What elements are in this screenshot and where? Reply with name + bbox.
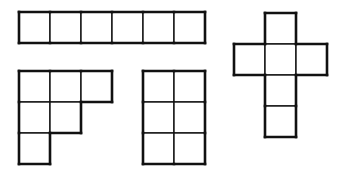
cell bbox=[112, 12, 143, 43]
cell bbox=[296, 44, 327, 75]
cell bbox=[143, 12, 174, 43]
cell bbox=[174, 102, 205, 133]
cell bbox=[143, 133, 174, 164]
cell bbox=[174, 133, 205, 164]
cell bbox=[265, 106, 296, 137]
cell bbox=[19, 71, 50, 102]
cell bbox=[143, 71, 174, 102]
cell bbox=[265, 13, 296, 44]
cell bbox=[81, 71, 112, 102]
shape-staircase bbox=[19, 71, 112, 164]
cell bbox=[50, 12, 81, 43]
diagram-canvas bbox=[0, 0, 343, 170]
shape-rectangle-2x3 bbox=[143, 71, 205, 164]
cell bbox=[50, 71, 81, 102]
cell bbox=[19, 133, 50, 164]
shape-horizontal-bar bbox=[19, 12, 205, 43]
cell bbox=[81, 12, 112, 43]
cell bbox=[234, 44, 265, 75]
cell bbox=[19, 102, 50, 133]
cell bbox=[19, 12, 50, 43]
cell bbox=[265, 75, 296, 106]
cell bbox=[265, 44, 296, 75]
shape-cross bbox=[234, 13, 327, 137]
cell bbox=[50, 102, 81, 133]
cell bbox=[174, 12, 205, 43]
cell bbox=[174, 71, 205, 102]
cell bbox=[143, 102, 174, 133]
